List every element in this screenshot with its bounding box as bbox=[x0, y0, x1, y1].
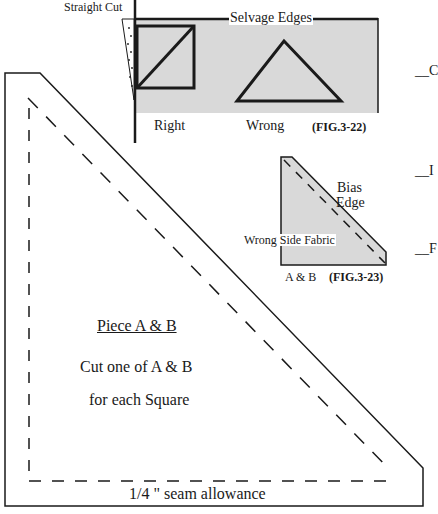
straight-cut-label: Straight Cut bbox=[64, 1, 122, 13]
edge-label: Edge bbox=[336, 196, 365, 210]
wrong-side-fabric-label: Wrong Side Fabric bbox=[243, 234, 336, 246]
wrong-side-label: Wrong bbox=[246, 119, 284, 133]
seam-allowance-label: 1/4 " seam allowance bbox=[129, 486, 266, 502]
straight-cut-wedge bbox=[122, 19, 134, 100]
cut-instruction-line1: Cut one of A & B bbox=[80, 359, 192, 375]
fabric-rectangle bbox=[136, 19, 378, 113]
checklist-mark-c: __C bbox=[415, 64, 438, 78]
right-side-label: Right bbox=[154, 119, 185, 133]
checklist-mark-f: __F bbox=[415, 242, 437, 256]
piece-title: Piece A & B bbox=[97, 318, 177, 334]
checklist-mark-i: __I bbox=[415, 164, 434, 178]
fig-3-23-label: (FIG.3-23) bbox=[329, 271, 383, 283]
fig-3-22-label: (FIG.3-22) bbox=[312, 121, 366, 133]
selvage-edges-label: Selvage Edges bbox=[229, 11, 313, 25]
cut-instruction-line2: for each Square bbox=[89, 392, 189, 408]
a-and-b-label: A & B bbox=[285, 271, 316, 283]
bias-label: Bias bbox=[336, 181, 363, 195]
